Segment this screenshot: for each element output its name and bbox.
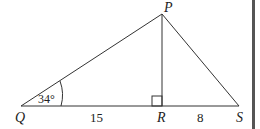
vertex-label-S: S [236,110,243,125]
right-angle-marker [152,96,162,106]
angle-arc-Q [60,81,63,106]
triangle-diagram: 34° P Q R S 15 8 [0,0,260,129]
side-PS [162,14,239,106]
length-label-QR: 15 [90,110,103,125]
vertex-label-R: R [156,110,166,125]
vertex-label-Q: Q [15,110,25,125]
angle-label-Q: 34° [38,92,55,106]
length-label-RS: 8 [197,110,204,125]
page-edge-bar [252,0,255,129]
vertex-label-P: P [163,0,173,15]
